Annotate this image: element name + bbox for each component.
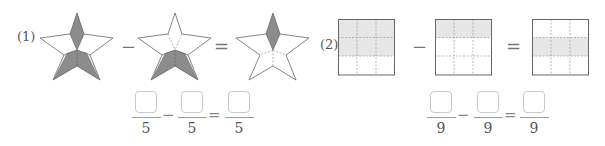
numerator-answer-box-1[interactable] — [135, 91, 157, 113]
fraction-bar — [520, 117, 549, 118]
minus-sign: − — [412, 36, 427, 57]
denominator: 9 — [522, 120, 546, 136]
denominator: 5 — [227, 120, 251, 136]
equals-sign: = — [506, 36, 521, 57]
grid-figure-3 — [532, 19, 590, 76]
denominator: 5 — [134, 120, 158, 136]
numerator-answer-box-1[interactable] — [430, 91, 452, 113]
fraction-bar — [427, 117, 456, 118]
equals-sign: = — [504, 106, 517, 124]
numerator-answer-box-3[interactable] — [228, 91, 250, 113]
numerator-answer-box-3[interactable] — [523, 91, 545, 113]
numerator-answer-box-2[interactable] — [181, 91, 203, 113]
fraction-bar — [474, 117, 503, 118]
equals-sign: = — [208, 106, 221, 124]
grid-figure-1 — [338, 19, 396, 76]
denominator: 5 — [180, 120, 204, 136]
fraction-bar — [225, 117, 254, 118]
grid-figure-2 — [435, 19, 493, 76]
star-figure-3 — [196, 0, 316, 100]
denominator: 9 — [476, 120, 500, 136]
denominator: 9 — [429, 120, 453, 136]
fraction-bar — [132, 117, 161, 118]
minus-sign: − — [457, 106, 470, 124]
problem-2-label: (2) — [320, 37, 338, 52]
fraction-bar — [178, 117, 207, 118]
minus-sign: − — [162, 106, 175, 124]
numerator-answer-box-2[interactable] — [477, 91, 499, 113]
